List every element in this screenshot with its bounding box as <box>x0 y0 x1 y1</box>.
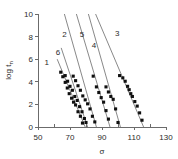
series-2-data-point <box>91 115 94 118</box>
series-4-data-point <box>114 107 117 110</box>
series-4-data-point <box>109 95 112 98</box>
series-6-data-point <box>68 85 71 88</box>
series-4-data-point <box>107 90 110 93</box>
series-2-data-point <box>72 75 75 78</box>
series-1-data-point <box>59 71 62 74</box>
series-3-data-point <box>129 92 132 95</box>
y-tick-label: 6 <box>29 55 34 64</box>
series-2-data-point <box>93 120 96 123</box>
series-1-data-point <box>72 101 75 104</box>
x-tick-label: 130 <box>159 133 173 142</box>
series-4-data-point <box>104 85 107 88</box>
y-tick-label: 4 <box>29 78 34 87</box>
series-4-data-point <box>112 98 115 101</box>
series-5-data-point <box>102 101 105 104</box>
series-label-5: 5 <box>80 30 85 39</box>
series-3-data-point <box>124 80 127 83</box>
series-3-data-point <box>140 119 143 122</box>
series-5-data-point <box>97 91 100 94</box>
series-3-fit-line <box>96 14 144 127</box>
series-5-data-point <box>107 118 110 121</box>
y-tick-label: 8 <box>29 33 34 42</box>
series-5-data-point <box>104 109 107 112</box>
x-tick-label: 110 <box>128 133 141 142</box>
series-6 <box>61 48 87 127</box>
series-6-data-point <box>80 110 83 113</box>
series-2-data-point <box>84 98 87 101</box>
y-tick-label: 0 <box>29 123 34 132</box>
y-axis-title: log tn <box>4 61 14 79</box>
x-tick-label: 70 <box>66 133 75 142</box>
series-5-data-point <box>92 75 95 78</box>
series-6-fit-line <box>61 48 87 127</box>
scatter-plot: 162543 0246810507090110130 σlog tn <box>0 0 178 159</box>
series-6-data-point <box>83 117 86 120</box>
y-tick-label: 2 <box>29 100 34 109</box>
series-5-data-point <box>95 85 98 88</box>
x-axis-title: σ <box>100 147 105 156</box>
series-1-data-point <box>66 86 69 89</box>
series-6-data-point <box>66 80 69 83</box>
series-label-2: 2 <box>62 30 67 39</box>
series-3-data-point <box>128 88 131 91</box>
series-1-data-point <box>74 103 77 106</box>
series-2-data-point <box>81 94 84 97</box>
series-2-data-point <box>74 79 77 82</box>
series-2-data-point <box>86 102 89 105</box>
series-3-data-point <box>121 76 124 79</box>
series-3-data-point <box>133 100 136 103</box>
series-3-data-point <box>136 105 139 108</box>
y-tick-label: 10 <box>24 10 33 19</box>
series-labels-group: 162543 <box>45 29 120 67</box>
series-6-data-point <box>76 99 79 102</box>
chart-figure: 162543 0246810507090110130 σlog tn <box>0 0 178 159</box>
series-3 <box>96 14 144 127</box>
series-2-data-point <box>76 84 79 87</box>
series-1-data-point <box>70 97 73 100</box>
series-6-data-point <box>71 89 74 92</box>
series-label-1: 1 <box>45 58 50 67</box>
series-1-data-point <box>68 92 71 95</box>
series-label-6: 6 <box>56 48 61 57</box>
series-2-data-point <box>79 89 82 92</box>
series-6-data-point <box>64 74 67 77</box>
series-3-data-point <box>126 85 129 88</box>
series-4-data-point <box>116 121 119 124</box>
series-6-data-point <box>84 121 87 124</box>
series-6-data-point <box>78 105 81 108</box>
series-2-data-point <box>88 107 91 110</box>
series-1-data-point <box>81 121 84 124</box>
series-5-data-point <box>100 96 103 99</box>
series-3-data-point <box>131 95 134 98</box>
series-label-4: 4 <box>92 41 97 50</box>
x-tick-label: 90 <box>98 133 107 142</box>
series-3-data-point <box>138 111 141 114</box>
y-axis-title-main: log t <box>4 64 13 80</box>
series-label-3: 3 <box>115 29 120 38</box>
data-series-group <box>57 14 143 127</box>
axes <box>35 14 166 130</box>
x-tick-label: 50 <box>34 133 43 142</box>
series-1-data-point <box>79 115 82 118</box>
series-3-data-point <box>118 74 121 77</box>
series-1 <box>57 59 85 127</box>
series-1-data-point <box>76 110 79 113</box>
tick-labels-group: 0246810507090110130 <box>24 10 173 142</box>
series-6-data-point <box>73 95 76 98</box>
y-axis-title-subscript: n <box>8 61 14 64</box>
